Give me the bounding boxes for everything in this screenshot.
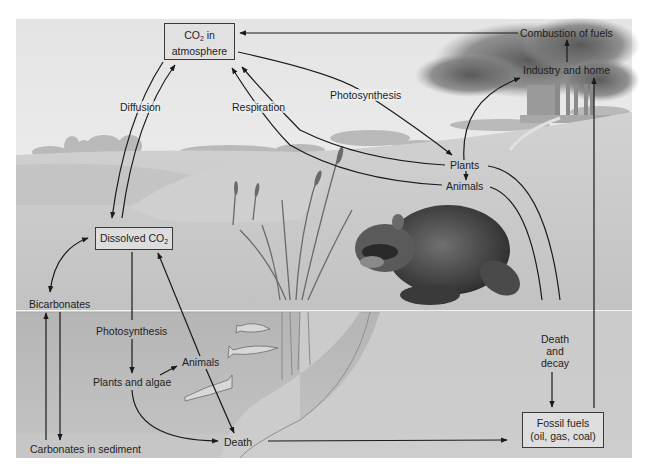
fossil-fuels-box: Fossil fuels (oil, gas, coal): [522, 412, 604, 448]
respiration-label: Respiration: [232, 101, 285, 113]
plants-algae-label: Plants and algae: [93, 376, 171, 388]
co2-atmosphere-box: CO2 in atmosphere: [164, 23, 235, 60]
plants-label: Plants: [450, 159, 479, 171]
combustion-label: Combustion of fuels: [520, 27, 613, 39]
carbon-cycle-diagram: CO2 in atmosphere Combustion of fuels In…: [0, 0, 648, 475]
animals-land-label: Animals: [446, 180, 483, 192]
animals-water-label: Animals: [182, 356, 219, 368]
photosynthesis-water-label: Photosynthesis: [96, 325, 167, 337]
dissolved-co2-box: Dissolved CO2: [95, 227, 173, 250]
bicarbonates-label: Bicarbonates: [29, 298, 90, 310]
industry-label: Industry and home: [523, 64, 610, 76]
carbonates-label: Carbonates in sediment: [30, 443, 141, 455]
photosynthesis-land-label: Photosynthesis: [330, 89, 401, 101]
death-decay-label: Death and decay: [535, 333, 575, 369]
death-label: Death: [224, 436, 252, 448]
diffusion-label: Diffusion: [120, 101, 161, 113]
